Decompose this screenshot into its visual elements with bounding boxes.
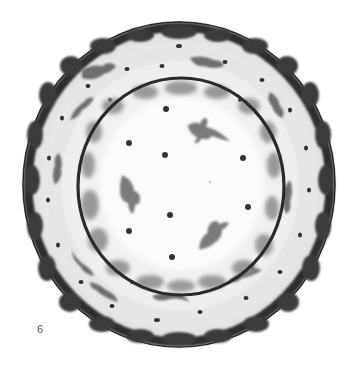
plate-illustration [0, 0, 353, 367]
glaze-spot [209, 181, 212, 184]
figure-number-label: 6 [37, 324, 43, 335]
plate-photograph: 6 [0, 0, 353, 367]
